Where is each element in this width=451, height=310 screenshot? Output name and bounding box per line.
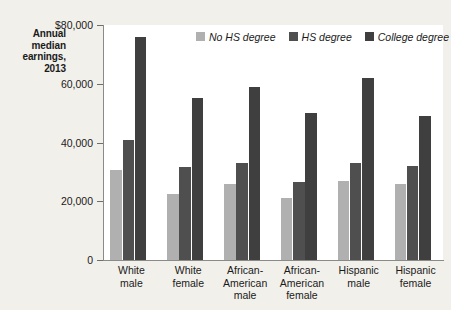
bar [305, 113, 317, 260]
legend-label: No HS degree [209, 31, 276, 43]
y-axis-tick [97, 143, 103, 144]
bar [407, 166, 419, 260]
bar-group [395, 25, 431, 260]
x-axis-tick-label-line: male [217, 289, 274, 302]
y-axis-tick-label: 0 [33, 254, 93, 266]
bar [135, 37, 147, 260]
y-axis-tick [97, 84, 103, 85]
bar [110, 170, 122, 260]
legend-item: College degree [365, 31, 449, 43]
legend-item: HS degree [289, 31, 352, 43]
bar-group [338, 25, 374, 260]
bar-group [281, 25, 317, 260]
y-axis-tick-label: $80,000 [33, 19, 93, 31]
bar [249, 87, 261, 260]
x-axis-tick-label-line: female [160, 277, 217, 290]
y-axis-labels: 020,00040,00060,000$80,000 [30, 0, 93, 310]
y-axis-tick-label: 20,000 [33, 195, 93, 207]
bar [362, 78, 374, 260]
y-axis-tick [97, 201, 103, 202]
legend-swatch [289, 32, 298, 41]
bar-group [110, 25, 146, 260]
bar-group [224, 25, 260, 260]
bar [179, 167, 191, 260]
legend-swatch [196, 32, 205, 41]
bar-groups [103, 25, 444, 261]
bar [293, 182, 305, 260]
legend-label: HS degree [302, 31, 352, 43]
x-axis-tick-label: Whitemale [103, 264, 160, 289]
bar [224, 184, 236, 260]
x-axis-tick-label-line: Hispanic [330, 264, 387, 277]
bar-group [167, 25, 203, 260]
bar [350, 163, 362, 260]
x-axis-tick-label-line: female [387, 277, 444, 290]
bar [395, 184, 407, 260]
chart-figure: Annual median earnings, 2013 020,00040,0… [0, 0, 451, 310]
y-axis-tick [97, 260, 103, 261]
x-axis-tick-label-line: female [274, 289, 331, 302]
x-axis-tick-label-line: White [103, 264, 160, 277]
y-axis-tick-label: 60,000 [33, 78, 93, 90]
bar [281, 198, 293, 260]
bar [167, 194, 179, 260]
x-axis-tick-label-line: American [217, 277, 274, 290]
x-axis-tick-label-line: American [274, 277, 331, 290]
x-axis-tick-label-line: White [160, 264, 217, 277]
x-axis-tick-label-line: African- [217, 264, 274, 277]
bar [123, 140, 135, 260]
x-axis-tick-label: African-Americanmale [217, 264, 274, 302]
x-axis-labels: WhitemaleWhitefemaleAfrican-Americanmale… [103, 264, 444, 310]
bar [192, 98, 204, 260]
legend-item: No HS degree [196, 31, 276, 43]
legend-swatch [365, 32, 374, 41]
x-axis-tick-label-line: male [103, 277, 160, 290]
x-axis-tick-label-line: Hispanic [387, 264, 444, 277]
x-axis-tick-label-line: male [330, 277, 387, 290]
x-axis-tick-label: Hispanicfemale [387, 264, 444, 289]
bar [338, 181, 350, 260]
y-axis-tick [97, 25, 103, 26]
legend-label: College degree [378, 31, 449, 43]
x-axis-tick-label: African-Americanfemale [274, 264, 331, 302]
bar [419, 116, 431, 260]
x-axis-tick-label: Whitefemale [160, 264, 217, 289]
x-axis-tick-label-line: African- [274, 264, 331, 277]
chart-legend: No HS degreeHS degreeCollege degree [196, 30, 451, 43]
bar [236, 163, 248, 260]
y-axis-tick-label: 40,000 [33, 137, 93, 149]
x-axis-tick-label: Hispanicmale [330, 264, 387, 289]
